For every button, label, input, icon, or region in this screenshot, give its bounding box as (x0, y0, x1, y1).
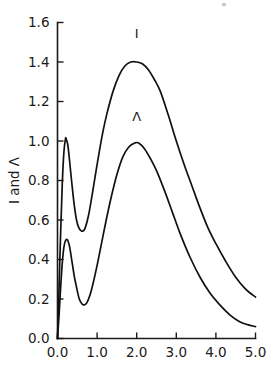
x-tick-label-4.0: 4.0 (205, 344, 226, 360)
curve-I (58, 62, 256, 339)
chart-figure: 0.00.20.40.60.81.01.21.41.6 0.01.02.03.0… (0, 0, 272, 375)
y-tick-label-0.4: 0.4 (28, 251, 49, 267)
curve-annotation-I: I (135, 26, 139, 41)
y-tick-label-0.2: 0.2 (28, 291, 49, 307)
y-axis-tick-labels: 0.00.20.40.60.81.01.21.41.6 (28, 14, 49, 346)
scan-artifact-speck (222, 3, 226, 6)
curve-annotation-Λ: Λ (132, 109, 141, 124)
x-tick-label-1.0: 1.0 (86, 344, 107, 360)
x-axis-ticks (58, 333, 256, 339)
y-tick-label-1.2: 1.2 (28, 93, 49, 109)
plot-canvas: 0.00.20.40.60.81.01.21.41.6 0.01.02.03.0… (0, 0, 272, 375)
x-axis-tick-labels: 0.01.02.03.04.05.0 (47, 344, 266, 360)
curve-annotations: IΛ (132, 26, 141, 124)
curve-Λ (58, 142, 256, 338)
y-axis-title: I and Λ (6, 156, 22, 204)
x-tick-label-3.0: 3.0 (166, 344, 187, 360)
y-tick-label-1.0: 1.0 (28, 133, 49, 149)
data-curves (58, 62, 256, 339)
y-tick-label-1.4: 1.4 (28, 54, 49, 70)
x-tick-label-2.0: 2.0 (126, 344, 147, 360)
x-tick-label-5.0: 5.0 (245, 344, 266, 360)
y-tick-label-1.6: 1.6 (28, 14, 49, 30)
y-tick-label-0.8: 0.8 (28, 172, 49, 188)
x-tick-label-0.0: 0.0 (47, 344, 68, 360)
y-tick-label-0.6: 0.6 (28, 212, 49, 228)
